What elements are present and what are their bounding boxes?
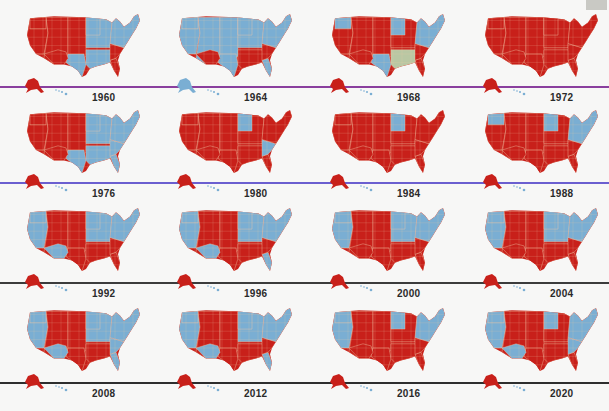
- alaska-shape: [330, 78, 349, 93]
- us-map-icon: [152, 2, 302, 102]
- election-map-1968: 1968: [305, 2, 455, 102]
- us-map-icon: [458, 296, 608, 396]
- us-map-icon: [305, 2, 455, 102]
- us-map-icon: [152, 196, 302, 296]
- hawaii-shape: [513, 89, 525, 95]
- us-map-icon: [152, 98, 302, 198]
- us-map-icon: [305, 196, 455, 296]
- election-map-2016: 2016: [305, 296, 455, 396]
- election-map-1980: 1980: [152, 98, 302, 198]
- alaska-shape: [25, 274, 44, 289]
- alaska-shape: [330, 274, 349, 289]
- us-map-icon: [305, 98, 455, 198]
- alaska-shape: [25, 174, 44, 189]
- election-map-2012: 2012: [152, 296, 302, 396]
- hawaii-shape: [513, 285, 525, 291]
- year-label: 2012: [244, 388, 267, 399]
- alaska-shape: [177, 374, 196, 389]
- hawaii-shape: [207, 385, 219, 391]
- us-map-icon: [0, 98, 150, 198]
- alaska-shape: [25, 374, 44, 389]
- hawaii-shape: [207, 89, 219, 95]
- hawaii-shape: [513, 185, 525, 191]
- election-map-1964: 1964: [152, 2, 302, 102]
- hawaii-shape: [55, 89, 67, 95]
- election-map-2004: 2004: [458, 196, 608, 296]
- alaska-shape: [330, 174, 349, 189]
- us-map-icon: [0, 296, 150, 396]
- hawaii-shape: [513, 385, 525, 391]
- year-label: 2016: [397, 388, 420, 399]
- us-map-icon: [0, 2, 150, 102]
- year-label: 2020: [550, 388, 573, 399]
- us-map-icon: [0, 196, 150, 296]
- election-map-1976: 1976: [0, 98, 150, 198]
- alaska-shape: [177, 78, 196, 93]
- hawaii-shape: [360, 185, 372, 191]
- us-map-icon: [305, 296, 455, 396]
- election-map-2020: 2020: [458, 296, 608, 396]
- alaska-shape: [483, 374, 502, 389]
- election-map-1992: 1992: [0, 196, 150, 296]
- election-map-1972: 1972: [458, 2, 608, 102]
- election-map-1996: 1996: [152, 196, 302, 296]
- hawaii-shape: [360, 89, 372, 95]
- election-map-2000: 2000: [305, 196, 455, 296]
- hawaii-shape: [360, 385, 372, 391]
- us-map-icon: [458, 2, 608, 102]
- hawaii-shape: [360, 285, 372, 291]
- election-map-2008: 2008: [0, 296, 150, 396]
- us-map-icon: [152, 296, 302, 396]
- alaska-shape: [483, 174, 502, 189]
- year-label: 2008: [92, 388, 115, 399]
- hawaii-shape: [55, 385, 67, 391]
- us-map-icon: [458, 98, 608, 198]
- hawaii-shape: [55, 285, 67, 291]
- alaska-shape: [483, 78, 502, 93]
- us-map-icon: [458, 196, 608, 296]
- hawaii-shape: [55, 185, 67, 191]
- alaska-shape: [177, 274, 196, 289]
- election-map-1988: 1988: [458, 98, 608, 198]
- election-map-1960: 1960: [0, 2, 150, 102]
- hawaii-shape: [207, 285, 219, 291]
- alaska-shape: [25, 78, 44, 93]
- hawaii-shape: [207, 185, 219, 191]
- election-map-1984: 1984: [305, 98, 455, 198]
- alaska-shape: [177, 174, 196, 189]
- alaska-shape: [483, 274, 502, 289]
- alaska-shape: [330, 374, 349, 389]
